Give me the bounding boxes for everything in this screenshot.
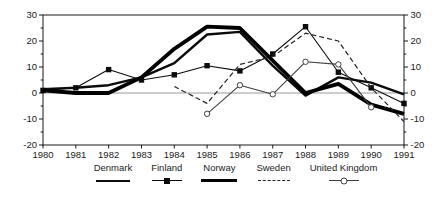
legend-label-norway: Norway	[203, 162, 235, 173]
thick-line-icon	[201, 179, 237, 182]
y-axis-label-right: 0	[411, 87, 416, 98]
legend: Denmark Finland Norway Sweden United Kin…	[0, 162, 445, 185]
series-line-denmark	[43, 32, 404, 96]
x-axis-label: 1984	[164, 149, 185, 160]
legend-label-finland: Finland	[151, 162, 182, 173]
legend-item-sweden: Sweden	[256, 162, 290, 185]
x-axis-label: 1991	[393, 149, 414, 160]
filled-square-marker-icon	[164, 178, 170, 184]
y-axis-label-right: 10	[411, 61, 422, 72]
legend-sample-finland	[152, 176, 182, 185]
x-axis-label: 1982	[98, 149, 119, 160]
marker-open-circle-united-kingdom	[368, 105, 373, 110]
series-line-norway	[43, 27, 404, 114]
dashed-line-icon	[258, 180, 290, 181]
x-axis-label: 1980	[32, 149, 53, 160]
marker-open-circle-united-kingdom	[303, 59, 308, 64]
marker-open-circle-united-kingdom	[237, 83, 242, 88]
y-axis-label-left: 10	[26, 61, 37, 72]
marker-filled-square-finland	[336, 70, 341, 75]
x-axis-label: 1985	[197, 149, 218, 160]
marker-filled-square-finland	[73, 85, 78, 90]
legend-sample-norway	[201, 176, 237, 185]
legend-label-united-kingdom: United Kingdom	[310, 162, 378, 173]
legend-sample-united-kingdom	[329, 176, 359, 185]
legend-item-denmark: Denmark	[94, 162, 133, 185]
x-axis-label: 1990	[361, 149, 382, 160]
marker-filled-square-finland	[106, 67, 111, 72]
y-axis-label-left: 0	[32, 87, 37, 98]
chart-page: -20-20-10-100010102020303019801981198219…	[0, 0, 445, 197]
marker-open-circle-united-kingdom	[336, 62, 341, 67]
open-circle-marker-icon	[340, 177, 347, 184]
y-axis-label-right: 30	[411, 9, 422, 20]
price-change-line-chart: -20-20-10-100010102020303019801981198219…	[0, 0, 445, 162]
x-axis-label: 1986	[229, 149, 250, 160]
x-axis-label: 1988	[295, 149, 316, 160]
x-axis-label: 1981	[65, 149, 86, 160]
legend-item-finland: Finland	[151, 162, 182, 185]
marker-filled-square-finland	[204, 63, 209, 68]
legend-item-norway: Norway	[201, 162, 237, 185]
y-axis-label-left: 30	[26, 9, 37, 20]
legend-sample-sweden	[258, 176, 290, 185]
y-axis-label-left: -10	[23, 113, 37, 124]
solid-line-icon	[96, 180, 130, 182]
marker-filled-square-finland	[303, 24, 308, 29]
x-axis-label: 1989	[328, 149, 349, 160]
legend-label-sweden: Sweden	[256, 162, 290, 173]
x-axis-label: 1983	[131, 149, 152, 160]
legend-label-denmark: Denmark	[94, 162, 133, 173]
legend-item-united-kingdom: United Kingdom	[310, 162, 378, 185]
marker-filled-square-finland	[172, 72, 177, 77]
marker-open-circle-united-kingdom	[204, 111, 209, 116]
y-axis-label-right: 20	[411, 35, 422, 46]
marker-filled-square-finland	[401, 101, 406, 106]
y-axis-label-left: 20	[26, 35, 37, 46]
marker-open-circle-united-kingdom	[270, 92, 275, 97]
x-axis-label: 1987	[262, 149, 283, 160]
marker-filled-square-finland	[237, 68, 242, 73]
legend-sample-denmark	[96, 176, 130, 185]
y-axis-label-right: -10	[411, 113, 425, 124]
